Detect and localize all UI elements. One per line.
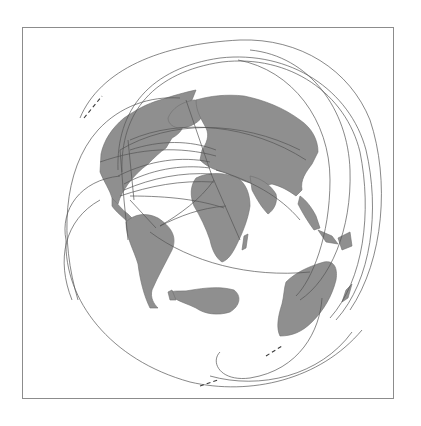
landmass-australia: [278, 262, 337, 336]
mark-south-dash-1: [200, 380, 218, 386]
route-south-loop-2: [210, 332, 352, 381]
landmass-africa: [191, 174, 250, 263]
world-route-map: [0, 0, 421, 426]
landmass-madagascar: [242, 234, 248, 250]
landmass-south-america: [126, 215, 174, 308]
mark-south-dash-2: [266, 346, 282, 356]
mark-north-dash: [84, 96, 102, 118]
landmass-southeast-asia: [298, 196, 320, 230]
route-pacific-west-2: [64, 200, 100, 300]
land-layer: [100, 90, 352, 336]
landmass-antarctica: [170, 288, 239, 314]
